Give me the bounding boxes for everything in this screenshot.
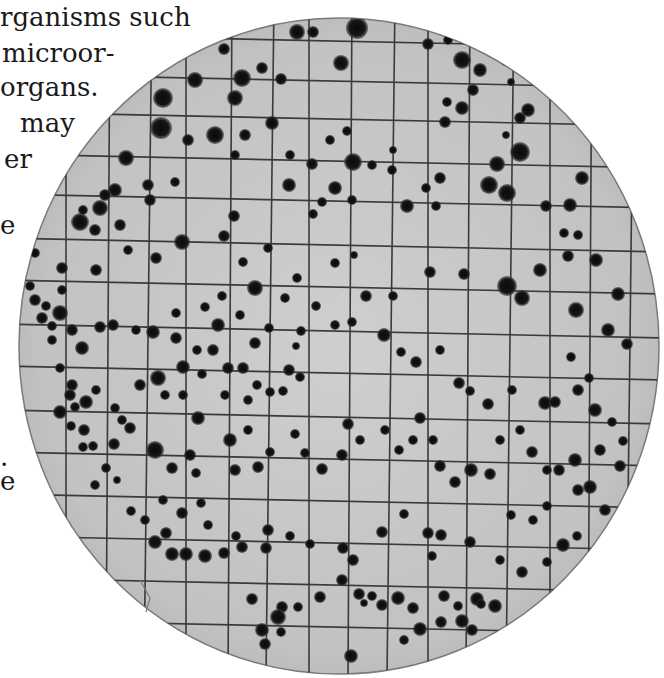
colony [464,463,478,477]
colony [131,325,141,335]
colony [515,425,525,435]
colony [342,418,354,430]
colony [380,425,390,435]
colony [233,69,251,87]
colony [488,599,502,613]
colony [507,78,515,86]
colony [182,134,194,146]
colony [236,541,248,553]
colony [237,362,249,374]
colony [336,449,348,461]
colony [347,195,357,205]
colony [276,627,286,637]
colony [559,228,569,238]
colony [568,453,582,467]
colony [126,506,136,516]
colony [89,224,101,236]
colony [317,197,327,207]
colony [218,230,230,242]
colony [353,588,365,600]
colony [344,153,362,171]
colony [70,402,80,412]
colony [305,539,315,549]
colony [239,129,251,141]
colony [328,181,342,195]
colony [265,116,279,130]
colony [176,360,190,374]
colony [170,177,180,187]
colony [573,230,583,240]
colony [556,538,570,552]
colony [575,171,589,185]
colony [594,444,606,456]
colony [171,308,181,318]
colony [422,38,434,50]
colony [467,84,479,96]
colony [367,591,377,601]
colony [458,268,470,280]
colony [265,447,275,457]
colony [278,386,288,396]
colony [482,398,494,410]
colony [64,389,76,401]
colony [146,441,164,459]
colony [223,433,237,447]
colony [507,385,517,395]
colony [220,390,230,400]
colony [521,103,535,117]
colony [252,461,264,473]
colony [47,335,57,345]
colony [526,446,538,458]
colony [290,429,300,439]
colony [280,293,290,303]
colony [611,287,625,301]
colony [473,63,487,77]
colony [148,535,162,549]
colony [453,601,463,611]
colony [614,460,626,472]
colony [134,379,146,391]
colony [542,557,552,567]
colony [211,318,225,332]
colony [377,328,391,342]
colony [260,542,272,554]
colony [360,290,372,302]
colony [376,526,388,538]
colony [510,142,530,162]
colony [88,441,98,451]
colony [466,624,478,636]
petri-dish-plate [0,0,664,678]
colony [542,501,552,511]
colony [601,323,615,337]
colony [434,460,446,472]
colony [439,116,451,128]
colony [589,253,603,267]
colony [607,417,617,427]
colony [285,531,295,541]
colony [387,165,397,175]
colony [435,616,447,628]
colony [55,363,65,373]
colony [399,635,409,645]
colony [563,198,577,212]
colony [542,465,552,475]
colony [107,319,119,331]
colony [376,599,388,611]
colony [388,291,398,301]
colony [502,131,510,139]
colony [235,310,245,320]
colony [350,251,358,259]
colony [176,507,188,519]
colony [316,463,328,475]
colony [617,515,627,525]
colony [336,574,348,586]
colony [484,468,496,480]
colony [75,341,89,355]
colony [230,150,240,160]
colony [568,302,584,318]
colony [311,301,321,311]
colony [391,591,405,605]
colony [140,515,150,525]
colony [394,445,404,455]
colony [307,26,319,38]
